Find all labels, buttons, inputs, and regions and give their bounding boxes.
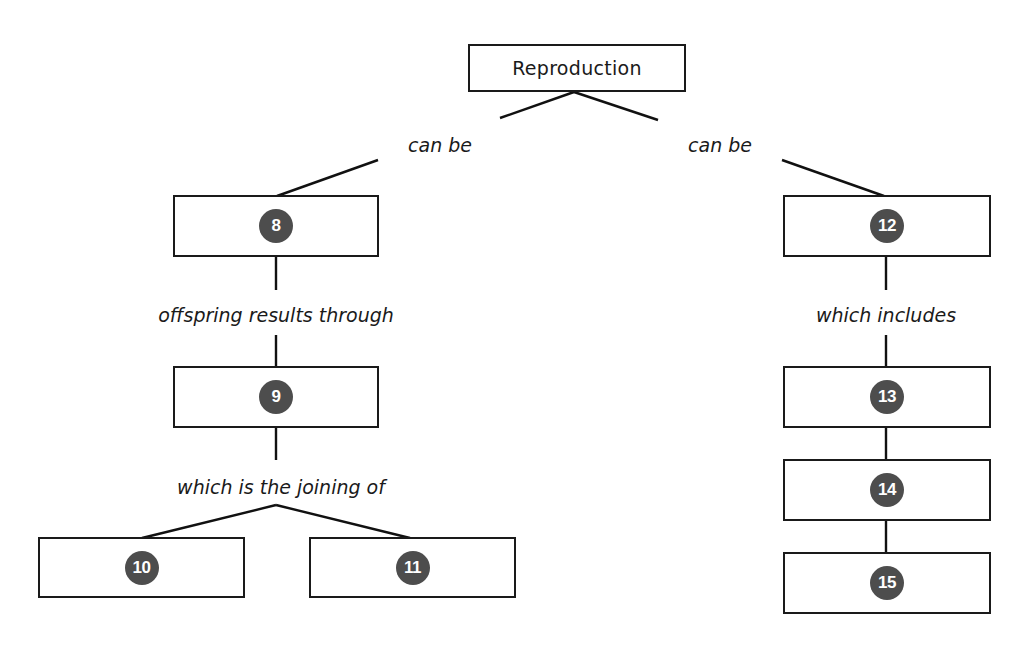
line-root-right: [574, 92, 658, 120]
line-canbe-right-to-12: [782, 160, 884, 196]
root-label: Reproduction: [512, 57, 642, 79]
node-14: 14: [783, 459, 991, 521]
number-badge-13: 13: [870, 380, 904, 414]
number-badge-15: 15: [870, 566, 904, 600]
node-9: 9: [173, 366, 379, 428]
node-13: 13: [783, 366, 991, 428]
line-root-left: [500, 92, 574, 118]
line-join-left: [142, 505, 276, 538]
number-badge-8: 8: [259, 209, 293, 243]
number-badge-10: 10: [125, 551, 159, 585]
node-10: 10: [38, 537, 245, 598]
line-join-right: [276, 505, 410, 538]
number-badge-9: 9: [259, 380, 293, 414]
node-15: 15: [783, 552, 991, 614]
number-badge-14: 14: [870, 473, 904, 507]
root-node: Reproduction: [468, 44, 686, 92]
concept-map: Reproduction can be can be offspring res…: [0, 0, 1036, 650]
node-8: 8: [173, 195, 379, 257]
node-11: 11: [309, 537, 516, 598]
number-badge-11: 11: [396, 551, 430, 585]
link-label-left-can-be: can be: [408, 134, 472, 156]
link-label-offspring: offspring results through: [158, 304, 394, 326]
link-label-includes: which includes: [816, 304, 956, 326]
link-label-joining: which is the joining of: [177, 476, 385, 498]
node-12: 12: [783, 195, 991, 257]
number-badge-12: 12: [870, 209, 904, 243]
link-label-right-can-be: can be: [688, 134, 752, 156]
line-canbe-left-to-8: [277, 160, 378, 196]
